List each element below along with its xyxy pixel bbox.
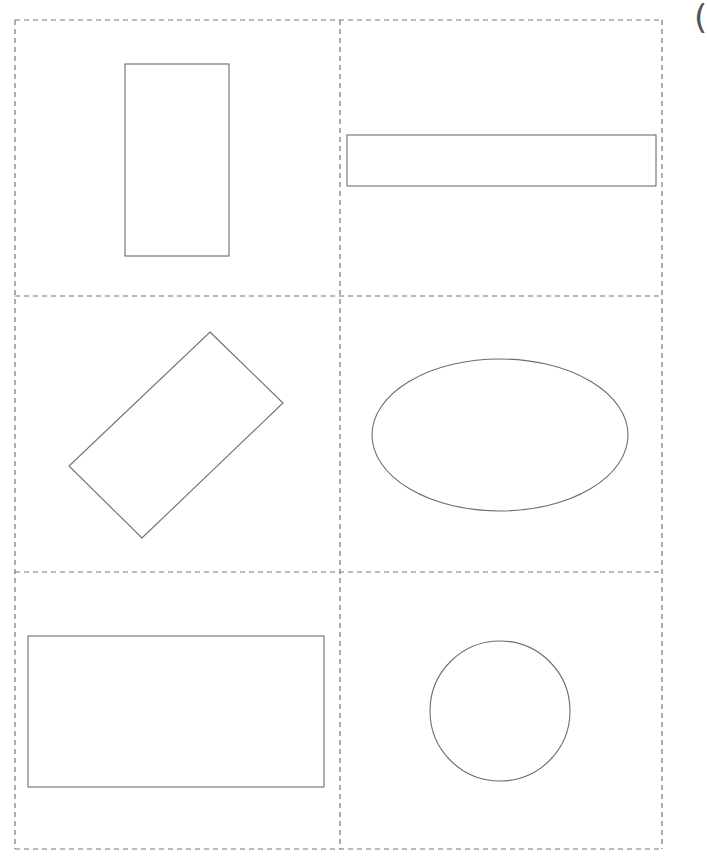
dashed-cut-grid — [15, 20, 662, 849]
tall-rectangle — [125, 64, 229, 256]
rotated-rectangle — [69, 332, 283, 538]
wide-thin-rectangle — [347, 135, 656, 186]
circle — [430, 641, 570, 781]
large-rectangle — [28, 636, 324, 787]
ellipse — [372, 359, 628, 511]
shape-set — [28, 64, 656, 787]
clipped-paren-glyph: ( — [694, 0, 707, 34]
